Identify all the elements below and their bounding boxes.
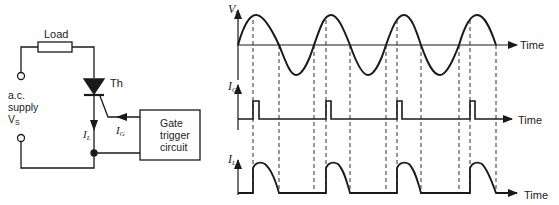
ig-axis-label: IG [227,79,237,94]
gate-box-label-2: trigger [160,129,190,141]
ig-time-label: Time [518,114,542,126]
thyristor-label: Th [110,77,123,89]
supply-terminal-bottom [18,135,25,142]
waveforms [238,10,517,195]
supply-label-1: a.c. [8,89,25,101]
gate-box-label-3: circuit [160,141,188,153]
vs-time-label: Time [520,39,544,51]
load-resistor [38,42,72,52]
gate-current-arrow [116,113,127,121]
supply-label-3: VS [8,113,20,126]
il-axis-label: IL [227,152,236,167]
il-waveform [238,163,517,193]
supply-terminal-top [18,73,25,80]
supply-label-2: supply [8,101,39,113]
gate-current-label: IG [115,124,125,138]
gate-lead [100,96,140,117]
il-time-label: Time [524,189,548,201]
load-current-arrow [90,120,98,131]
load-current-label: IL [82,128,91,142]
top-wire-right [72,47,94,78]
gate-box-label-1: Gate [160,117,183,129]
vs-axis-label: VS [228,2,239,17]
thyristor-symbol [84,79,104,94]
top-wire [21,47,38,72]
thyristor-diagram: Load Th a.c. supply VS IL IG Gate trigge… [0,0,559,205]
load-label: Load [44,28,68,40]
